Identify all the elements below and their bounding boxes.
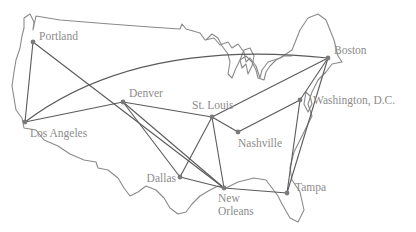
route-edges [25,42,328,193]
city-label-nashville: Nashville [238,137,282,149]
city-label-denver: Denver [129,87,163,99]
edge-washington-dc-tampa [287,100,300,193]
edge-boston-tampa [287,58,328,193]
city-node-denver [121,100,126,105]
city-label-portland: Portland [39,30,78,42]
city-node-boston [326,56,331,61]
us-network-map: PortlandLos AngelesDenverSt. LouisNashvi… [0,0,416,232]
edge-st-louis-nashville [212,117,238,132]
city-label-dallas: Dallas [147,172,177,184]
edge-st-louis-new-orleans [212,117,224,188]
city-label-washington-dc: Washington, D.C. [313,94,395,107]
city-node-new-orleans [222,186,227,191]
us-outline [12,14,342,222]
city-node-washington-dc [298,98,303,103]
city-label-st-louis: St. Louis [192,99,234,111]
edge-st-louis-dallas [180,117,212,177]
city-node-dallas [178,175,183,180]
city-node-tampa [285,191,290,196]
city-node-los-angeles [23,120,28,125]
edge-portland-los-angeles [25,42,33,122]
city-label-tampa: Tampa [295,181,326,194]
city-label-los-angeles: Los Angeles [30,127,88,140]
city-node-st-louis [210,115,215,120]
city-label-boston: Boston [334,44,367,56]
edge-nashville-washington-dc [238,100,300,132]
city-label-new-orleans: NewOrleans [218,192,254,217]
city-node-portland [31,40,36,45]
city-node-nashville [236,130,241,135]
edge-los-angeles-boston [25,54,328,122]
edge-denver-dallas [123,102,180,177]
